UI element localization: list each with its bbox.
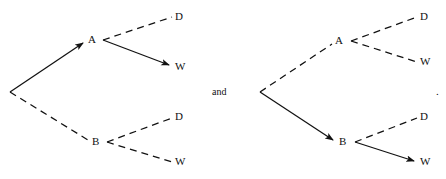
leaf-label-right-a-d: D	[420, 11, 428, 22]
edge-right-a-to-d	[351, 17, 417, 41]
edge-right-root-to-a	[260, 44, 332, 92]
leaf-label-right-b-d: D	[420, 111, 428, 122]
edge-left-a-to-w	[103, 40, 169, 65]
edge-left-a-to-d	[103, 17, 172, 40]
edge-right-root-to-b	[260, 92, 333, 140]
terminating-period: .	[436, 85, 439, 97]
edge-left-b-to-d	[107, 118, 172, 142]
leaf-label-right-a-w: W	[420, 56, 430, 67]
node-label-right-a: A	[335, 35, 343, 46]
node-label-left-b: B	[92, 136, 99, 147]
figure-canvas: A B D W D W and A B D W D W .	[0, 0, 446, 179]
edge-left-root-to-b	[10, 92, 88, 140]
leaf-label-left-b-d: D	[175, 111, 183, 122]
edge-left-b-to-w	[107, 142, 172, 162]
edge-right-a-to-w	[351, 41, 417, 62]
conjunction-label: and	[212, 86, 226, 97]
leaf-label-right-b-w: W	[420, 156, 430, 167]
edge-right-b-to-w	[355, 142, 414, 161]
leaf-label-left-a-d: D	[175, 11, 183, 22]
edge-right-b-to-d	[355, 118, 417, 142]
leaf-label-left-a-w: W	[175, 61, 185, 72]
node-label-right-b: B	[339, 136, 346, 147]
edge-left-root-to-a	[10, 43, 83, 92]
leaf-label-left-b-w: W	[175, 156, 185, 167]
node-label-left-a: A	[88, 34, 96, 45]
